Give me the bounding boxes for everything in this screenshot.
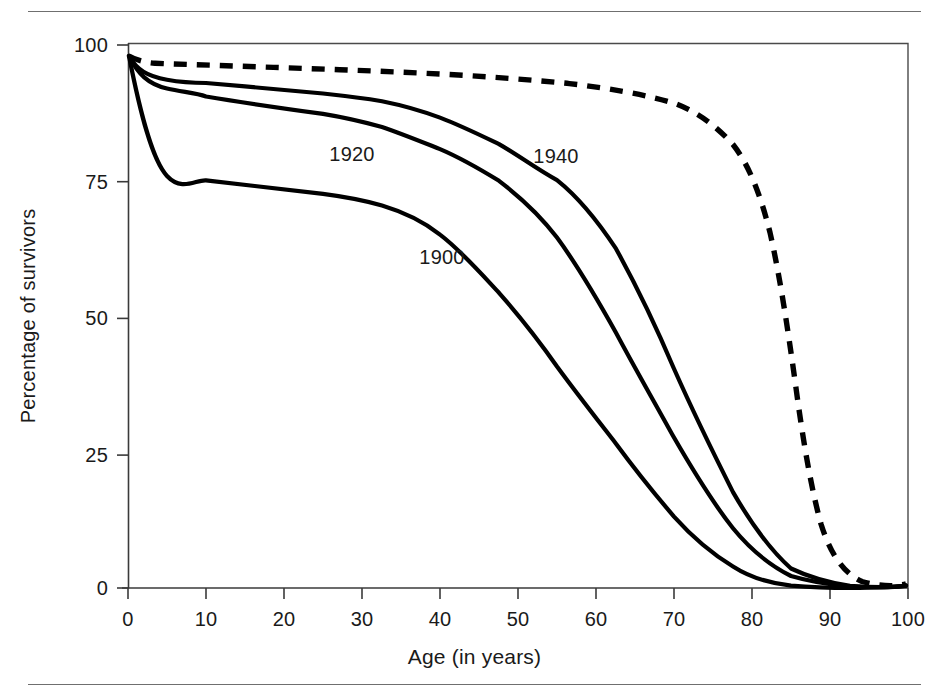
x-tick-label-70: 70 [663, 608, 686, 631]
x-tick-label-20: 20 [273, 608, 296, 631]
y-tick-label-75: 75 [62, 171, 108, 194]
curve-label-1900: 1900 [419, 246, 464, 269]
curve-label-1920: 1920 [329, 143, 374, 166]
x-tick-label-30: 30 [351, 608, 374, 631]
curve-label-1940: 1940 [533, 145, 578, 168]
x-tick-label-80: 80 [741, 608, 764, 631]
y-tick-label-0: 0 [62, 577, 108, 600]
x-axis-title: Age (in years) [0, 645, 949, 669]
y-tick-label-25: 25 [62, 444, 108, 467]
x-tick-label-90: 90 [819, 608, 842, 631]
y-tick-label-100: 100 [62, 34, 108, 57]
x-tick-label-0: 0 [122, 608, 133, 631]
x-axis-ticks [128, 588, 908, 599]
figure-root: 100 75 50 25 0 0 10 20 30 40 50 60 70 80… [0, 0, 949, 694]
survivorship-chart-svg [0, 0, 949, 694]
x-tick-label-50: 50 [507, 608, 530, 631]
x-tick-label-10: 10 [195, 608, 218, 631]
curve-1920 [129, 56, 906, 587]
x-tick-label-60: 60 [585, 608, 608, 631]
x-tick-label-100: 100 [891, 608, 925, 631]
curve-1900 [129, 56, 906, 588]
y-axis-title: Percentage of survivors [17, 209, 40, 424]
y-tick-label-50: 50 [62, 307, 108, 330]
y-axis-ticks [117, 45, 128, 588]
curve-ideal-dashed [129, 56, 906, 586]
x-tick-label-40: 40 [429, 608, 452, 631]
curve-1940 [129, 56, 906, 587]
